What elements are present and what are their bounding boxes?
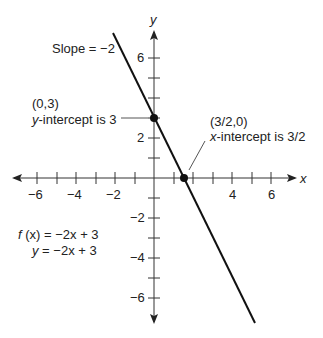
x-intercept-point-label: (3/2,0) [210,114,248,129]
x-tick-label: −2 [106,187,121,202]
x-intercept-point [180,174,188,182]
slope-annotation: Slope = −2 [52,41,115,56]
y-tick-label: −6 [130,290,145,305]
x-tick-label: 6 [268,187,275,202]
line-equation: y = −2x + 3 [32,243,97,258]
graph-canvas [0,0,323,338]
x-axis-label: x [300,171,307,186]
line-equation-text: = −2x + 3 [39,243,97,258]
y-intercept-text: -intercept is 3 [39,112,117,127]
y-intercept-point [150,114,158,122]
x-intercept-leader [189,141,205,170]
x-tick-label: −6 [28,187,43,202]
x-intercept-annotation: x-intercept is 3/2 [210,129,305,144]
x-tick-label: −4 [67,187,82,202]
y-intercept-point-label: (0,3) [32,96,59,111]
y-tick-label: 2 [137,130,144,145]
y-tick-label: 6 [137,50,144,65]
y-tick-label: −4 [130,250,145,265]
y-axis-label: y [150,12,157,27]
y-intercept-annotation: y-intercept is 3 [32,112,117,127]
x-tick-label: 4 [229,187,236,202]
function-equation-text: (x) = −2x + 3 [22,227,99,242]
function-equation: f (x) = −2x + 3 [18,227,99,242]
y-axis [148,32,160,322]
x-intercept-text: -intercept is 3/2 [217,129,306,144]
y-tick-label: −2 [130,210,145,225]
